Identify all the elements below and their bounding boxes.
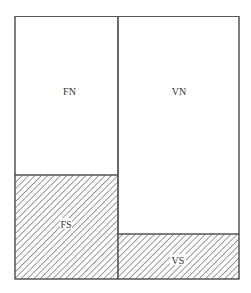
vn-label: VN: [172, 86, 186, 97]
fs-label: FS: [60, 219, 71, 230]
fn-label: FN: [63, 86, 76, 97]
vn-region: [118, 17, 239, 235]
partition-diagram: FN VN FS VS: [0, 0, 251, 293]
vs-label: VS: [172, 255, 185, 266]
